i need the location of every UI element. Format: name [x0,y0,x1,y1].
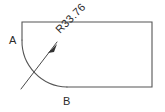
leader-arrowhead [48,44,57,53]
corner-arc [22,40,67,87]
vertex-label-a: A [9,34,17,46]
radius-dimension-label: R33.76 [53,1,88,36]
technical-drawing-canvas: A B R33.76 [0,0,165,112]
vertex-label-b: B [63,95,70,107]
drawing-svg: A B R33.76 [0,0,165,112]
radius-leader-line [21,42,57,89]
rectangle-outline [22,22,152,87]
